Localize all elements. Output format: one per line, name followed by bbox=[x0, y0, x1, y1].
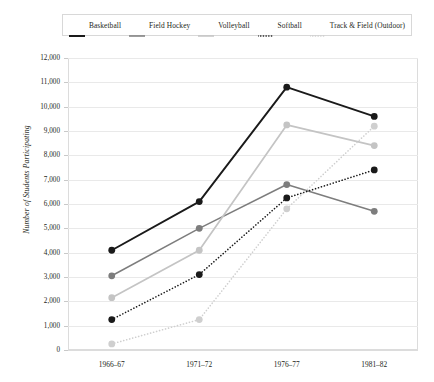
data-point bbox=[196, 198, 203, 205]
data-point bbox=[371, 123, 378, 130]
legend-item[interactable]: Softball bbox=[258, 21, 302, 30]
data-point bbox=[283, 195, 290, 202]
legend-label: Volleyball bbox=[218, 21, 249, 30]
data-point bbox=[108, 316, 115, 323]
y-axis-tick-label: 1,000 bbox=[0, 322, 60, 330]
x-axis-tick-label: 1976–77 bbox=[247, 360, 327, 369]
data-point bbox=[196, 316, 203, 323]
gridline bbox=[68, 350, 418, 351]
x-axis-tick-label: 1971–72 bbox=[159, 360, 239, 369]
x-axis-tick-label: 1981–82 bbox=[334, 360, 414, 369]
series-line bbox=[112, 126, 375, 344]
y-axis-tick-label: 11,000 bbox=[0, 78, 60, 86]
data-point bbox=[283, 181, 290, 188]
plot-area bbox=[68, 58, 418, 350]
y-axis-tick-label: 9,000 bbox=[0, 127, 60, 135]
y-axis-tick-label: 3,000 bbox=[0, 273, 60, 281]
data-point bbox=[371, 142, 378, 149]
data-point bbox=[371, 167, 378, 174]
data-point bbox=[108, 341, 115, 348]
data-point bbox=[283, 84, 290, 91]
legend-label: Field Hockey bbox=[149, 21, 190, 30]
y-axis-tick-label: 5,000 bbox=[0, 224, 60, 232]
series-line bbox=[112, 125, 375, 298]
data-point bbox=[283, 205, 290, 212]
data-point bbox=[196, 271, 203, 278]
legend-label: Basketball bbox=[89, 21, 121, 30]
y-axis-tick-label: 6,000 bbox=[0, 200, 60, 208]
data-point bbox=[108, 294, 115, 301]
data-point bbox=[283, 122, 290, 129]
y-axis-tick-label: 7,000 bbox=[0, 176, 60, 184]
data-point bbox=[196, 225, 203, 232]
data-point bbox=[196, 247, 203, 254]
legend-item[interactable]: Volleyball bbox=[198, 21, 249, 30]
y-axis-tick-label: 10,000 bbox=[0, 103, 60, 111]
legend-label: Softball bbox=[278, 21, 302, 30]
chart-legend: BasketballField HockeyVolleyballSoftball… bbox=[62, 14, 412, 36]
legend-item[interactable]: Basketball bbox=[69, 21, 121, 30]
legend-item[interactable]: Field Hockey bbox=[129, 21, 190, 30]
legend-item[interactable]: Track & Field (Outdoor) bbox=[310, 21, 405, 30]
series-line bbox=[112, 87, 375, 250]
y-axis-tick-label: 2,000 bbox=[0, 297, 60, 305]
y-axis-tick-label: 4,000 bbox=[0, 249, 60, 257]
data-point bbox=[371, 208, 378, 215]
data-point bbox=[371, 113, 378, 120]
chart-root: BasketballField HockeyVolleyballSoftball… bbox=[0, 0, 434, 382]
y-axis-tick-label: 0 bbox=[0, 346, 60, 354]
data-point bbox=[108, 247, 115, 254]
y-axis-tick-mark bbox=[64, 350, 68, 351]
series-lines bbox=[68, 58, 418, 350]
y-axis-tick-label: 8,000 bbox=[0, 151, 60, 159]
series-line bbox=[112, 170, 375, 320]
series-line bbox=[112, 185, 375, 276]
x-axis-tick-label: 1966–67 bbox=[72, 360, 152, 369]
legend-label: Track & Field (Outdoor) bbox=[330, 21, 405, 30]
y-axis-tick-label: 12,000 bbox=[0, 54, 60, 62]
data-point bbox=[108, 272, 115, 279]
